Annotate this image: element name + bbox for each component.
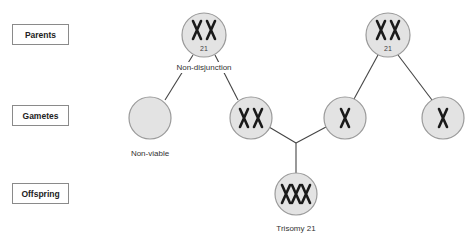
gamete-empty-cell: [129, 97, 171, 139]
nondisjunction-diagram: 21 Non-disjunction 21 Non-viable Tri: [0, 0, 474, 241]
chromosome-number-label: 21: [200, 45, 208, 52]
gamete-disomic-cell: [230, 97, 272, 139]
non-viable-label: Non-viable: [131, 149, 170, 158]
parent-2-cell: 21: [366, 13, 410, 57]
trisomy-21-label: Trisomy 21: [276, 224, 316, 233]
gamete-normal-a-cell: [324, 97, 366, 139]
chromosome-number-label: 21: [384, 45, 392, 52]
offspring-trisomy-cell: [275, 173, 317, 215]
nondisjunction-label: Non-disjunction: [176, 63, 231, 72]
parent-1-cell: 21: [182, 13, 226, 57]
gamete-normal-b-cell: [422, 97, 464, 139]
